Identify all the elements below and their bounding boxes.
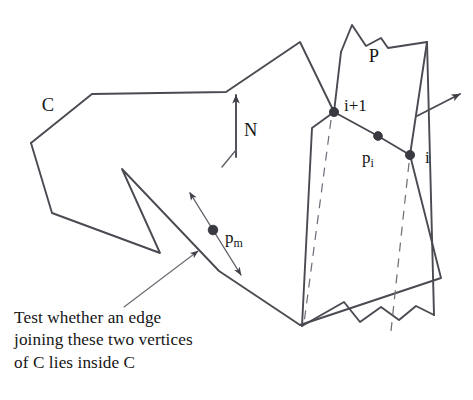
vertex-dot-p-i (374, 132, 383, 141)
vertex-dots (208, 107, 414, 234)
caption-pointer-line (124, 251, 198, 307)
dashed-line-right (391, 163, 409, 331)
contour-c-outline (31, 42, 441, 325)
label-normal-n: N (244, 120, 257, 140)
label-point-p-i-sub: i (371, 156, 375, 170)
normal-vector-n (222, 95, 236, 167)
caption-line-2: joining these two vertices (14, 329, 274, 351)
figure-canvas: C P N i+1 i pi pm Test whether an edge j… (0, 0, 473, 400)
label-vertex-i-plus-1: i+1 (344, 96, 367, 115)
dashed-projection-lines (304, 120, 409, 331)
caption-line-3: of C lies inside C (14, 352, 274, 374)
vertex-dot-i (405, 150, 414, 159)
vertex-dot-i-plus-1 (329, 107, 338, 116)
label-point-p-m-base: p (225, 228, 234, 247)
outward-normal-arrow (417, 94, 460, 116)
label-polygon-p: P (369, 46, 379, 66)
label-point-p-m: pm (225, 228, 244, 250)
label-point-p-i-base: p (362, 148, 371, 167)
vertex-dot-p-m (208, 225, 218, 235)
label-vertex-i: i (425, 148, 430, 167)
caption-line-1: Test whether an edge (14, 307, 274, 329)
label-contour-c: C (42, 95, 54, 115)
label-point-p-i: pi (362, 148, 375, 170)
figure-caption: Test whether an edge joining these two v… (14, 307, 274, 374)
label-point-p-m-sub: m (234, 236, 244, 250)
